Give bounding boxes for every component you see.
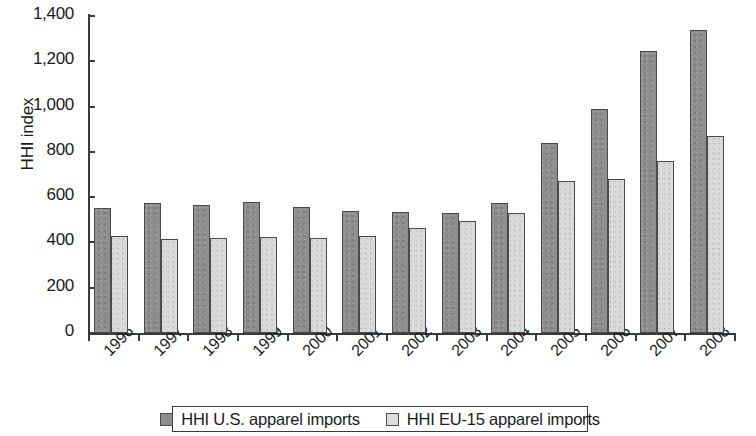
y-axis-title: HHI index: [18, 74, 38, 194]
x-tick-mark: [585, 333, 587, 341]
bar: [558, 181, 575, 333]
legend-swatch-eu: [386, 413, 399, 426]
bar: [508, 213, 525, 333]
bar: [210, 238, 227, 333]
bar: [193, 205, 210, 333]
x-tick-mark: [684, 333, 686, 341]
bar: [161, 239, 178, 333]
x-tick-mark: [138, 333, 140, 341]
bar: [94, 208, 111, 333]
x-tick-mark: [734, 333, 736, 341]
legend-swatch-us: [160, 413, 173, 426]
bar: [243, 202, 260, 333]
x-tick-mark: [386, 333, 388, 341]
bar: [657, 161, 674, 333]
bar: [491, 203, 508, 333]
y-tick-label: 1,200: [33, 49, 74, 69]
bar: [459, 221, 476, 333]
x-tick-mark: [486, 333, 488, 341]
bar: [260, 237, 277, 333]
bar: [442, 213, 459, 333]
x-tick-mark: [635, 333, 637, 341]
bar: [111, 236, 128, 333]
legend-label: HHI EU-15 apparel imports: [407, 410, 600, 429]
x-tick-mark: [436, 333, 438, 341]
y-tick-label: 200: [47, 276, 74, 296]
bar: [342, 211, 359, 333]
bar-chart: HHI index 02004006008001,0001,2001,400 1…: [0, 0, 756, 436]
y-tick-label: 1,400: [33, 4, 74, 24]
plot-area: [88, 16, 734, 333]
bar: [359, 236, 376, 333]
bar: [144, 203, 161, 333]
x-tick-mark: [88, 333, 90, 341]
bar: [293, 207, 310, 333]
bar: [409, 228, 426, 333]
bar: [640, 51, 657, 333]
bar: [707, 136, 724, 333]
y-tick-label: 0: [65, 321, 74, 341]
bar: [608, 179, 625, 333]
x-tick-mark: [336, 333, 338, 341]
x-tick-mark: [187, 333, 189, 341]
chart-legend: HHI U.S. apparel importsHHI EU-15 appare…: [172, 406, 588, 432]
bar: [310, 238, 327, 333]
bar: [591, 109, 608, 333]
bar: [541, 143, 558, 333]
y-tick-label: 600: [47, 185, 74, 205]
x-tick-mark: [535, 333, 537, 341]
x-tick-mark: [237, 333, 239, 341]
y-tick-label: 800: [47, 140, 74, 160]
legend-label: HHI U.S. apparel imports: [181, 410, 360, 429]
x-tick-mark: [287, 333, 289, 341]
legend-item: HHI U.S. apparel imports: [160, 410, 360, 429]
y-tick-label: 1,000: [33, 95, 74, 115]
bar: [392, 212, 409, 333]
bar: [690, 30, 707, 333]
y-tick-label: 400: [47, 230, 74, 250]
legend-item: HHI EU-15 apparel imports: [386, 410, 600, 429]
